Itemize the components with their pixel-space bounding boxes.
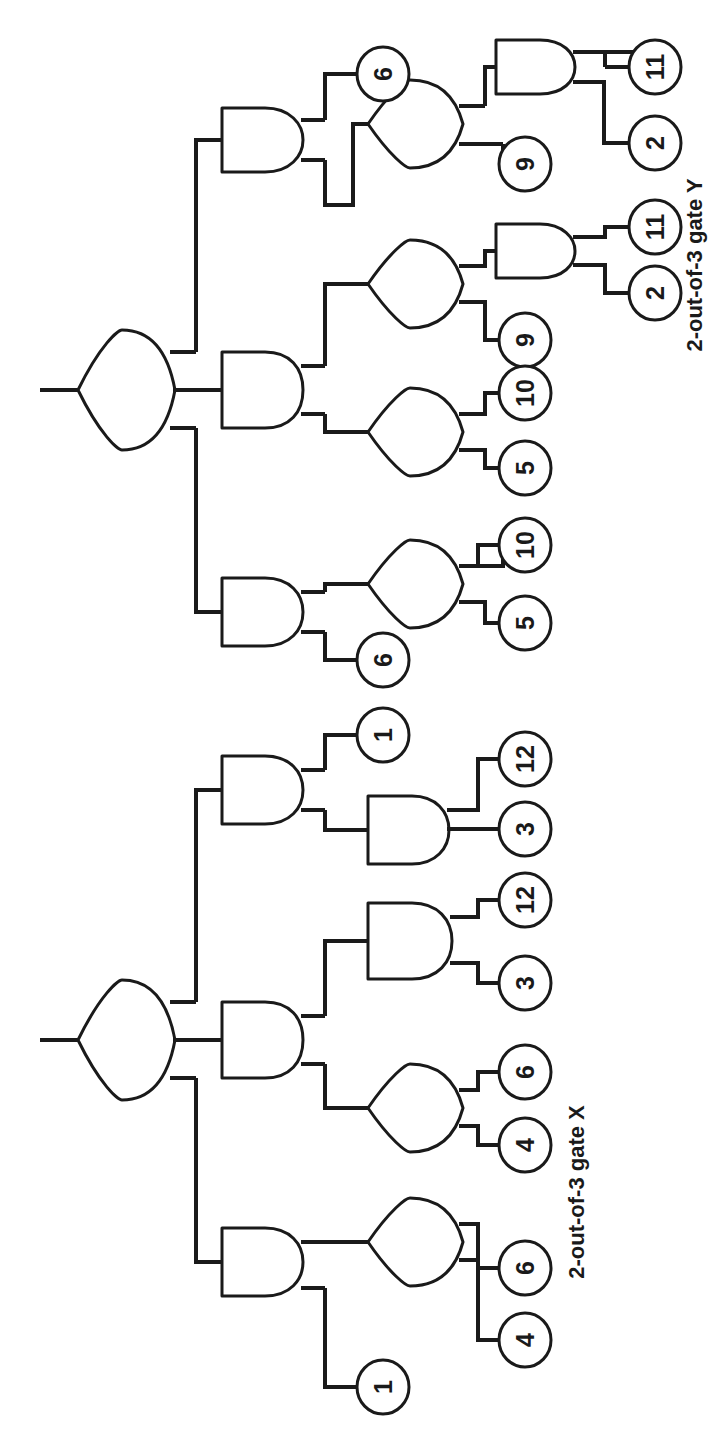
basic-event-label: 11 bbox=[641, 54, 669, 81]
basic-event-label: 1 bbox=[369, 1380, 397, 1394]
x-a1-to-and2 bbox=[325, 810, 368, 830]
y-branch3-wire bbox=[196, 428, 222, 612]
gate-and-x-a4 bbox=[368, 903, 452, 979]
basic-event: 5 bbox=[499, 596, 551, 650]
x-branch1-wire bbox=[196, 790, 222, 1002]
basic-event-label: 12 bbox=[511, 745, 539, 773]
basic-event-label: 10 bbox=[511, 379, 539, 407]
x-a5-to-ev1b bbox=[325, 1288, 361, 1387]
basic-event: 1 bbox=[357, 708, 409, 762]
y-o3-to-ev10a bbox=[459, 393, 503, 414]
basic-event-label: 4 bbox=[511, 1333, 539, 1347]
basic-event: 12 bbox=[499, 873, 551, 927]
caption-gate-x: 2-out-of-3 gate X bbox=[564, 1105, 589, 1279]
gate-and-x-a1 bbox=[222, 756, 303, 824]
basic-event-label: 12 bbox=[511, 886, 539, 914]
basic-event-label: 6 bbox=[369, 653, 397, 667]
basic-event-label: 9 bbox=[511, 157, 539, 171]
caption-gate-y-text: 2-out-of-3 gate Y bbox=[682, 178, 707, 351]
x-o2-to-ev4b bbox=[459, 1260, 503, 1340]
gate-and-y-a2 bbox=[496, 40, 575, 94]
y-a1-to-ev6 bbox=[325, 74, 361, 120]
basic-event: 12 bbox=[499, 732, 551, 786]
x-o1-to-ev4a bbox=[459, 1126, 503, 1145]
gate-and-x-a3 bbox=[222, 1002, 303, 1078]
y-a1-to-or1 bbox=[325, 124, 368, 205]
y-a3-to-or2 bbox=[325, 284, 368, 366]
gate-x-tree bbox=[40, 735, 503, 1387]
basic-event-label: 11 bbox=[641, 214, 669, 241]
gate-or-y-o3 bbox=[368, 388, 463, 476]
gate-and-y-a4 bbox=[496, 224, 575, 278]
basic-event: 6 bbox=[499, 1045, 551, 1099]
y-o1-to-and2 bbox=[485, 67, 496, 106]
gate-or-y-root bbox=[78, 330, 175, 450]
basic-event: 4 bbox=[499, 1118, 551, 1172]
basic-event-label: 6 bbox=[369, 67, 397, 81]
y-a2-in1-jog bbox=[573, 52, 605, 67]
x-a1-to-ev1a bbox=[325, 735, 361, 770]
basic-event-label: 9 bbox=[511, 333, 539, 347]
basic-event: 6 bbox=[499, 1241, 551, 1295]
basic-event-label: 4 bbox=[511, 1138, 539, 1152]
basic-event-label: 6 bbox=[511, 1065, 539, 1079]
basic-event: 1 bbox=[357, 1360, 409, 1414]
basic-event: 5 bbox=[499, 441, 551, 495]
basic-event: 4 bbox=[499, 1313, 551, 1367]
gate-or-y-o2 bbox=[368, 240, 463, 328]
x-a3-to-or1 bbox=[325, 1064, 368, 1108]
basic-event: 11 bbox=[629, 40, 681, 94]
basic-event: 10 bbox=[499, 518, 551, 572]
gate-and-x-a2 bbox=[368, 796, 449, 864]
y-a2-in2-to-ev2 bbox=[573, 82, 633, 143]
fault-tree-diagram: 6112911291051056112312364641 2-out-of-3 … bbox=[0, 0, 725, 1437]
gate-or-x-root bbox=[78, 980, 175, 1100]
basic-event-label: 2 bbox=[641, 136, 669, 150]
basic-event-label: 6 bbox=[511, 1261, 539, 1275]
x-a4-to-ev12b bbox=[450, 900, 503, 917]
y-o4-to-ev10b-seg bbox=[459, 545, 503, 566]
y-a4-to-ev11b bbox=[573, 227, 633, 237]
y-o3-to-ev5a bbox=[459, 450, 503, 468]
basic-event: 3 bbox=[499, 802, 551, 856]
basic-event-label: 3 bbox=[511, 976, 539, 990]
caption-gate-x-text: 2-out-of-3 gate X bbox=[564, 1105, 589, 1279]
basic-event: 6 bbox=[357, 633, 409, 687]
y-a5-to-ev6b bbox=[325, 632, 361, 660]
basic-event-label: 5 bbox=[511, 461, 539, 475]
y-a4-to-ev2b bbox=[573, 265, 633, 293]
basic-event: 2 bbox=[629, 116, 681, 170]
x-o1-to-ev6a bbox=[459, 1072, 503, 1090]
basic-event: 3 bbox=[499, 956, 551, 1010]
gate-and-y-a5 bbox=[222, 578, 303, 646]
x-branch3-wire bbox=[196, 1078, 222, 1262]
basic-event: 9 bbox=[499, 137, 551, 191]
basic-event: 6 bbox=[357, 47, 409, 101]
y-o4-to-ev5b bbox=[459, 602, 503, 623]
basic-event-label: 3 bbox=[511, 822, 539, 836]
basic-event-label: 10 bbox=[511, 531, 539, 559]
y-o2-to-ev9b bbox=[459, 302, 503, 340]
gate-and-y-a3 bbox=[222, 352, 303, 428]
y-a3-to-or3 bbox=[325, 414, 368, 432]
gate-or-y-o4 bbox=[368, 540, 463, 628]
basic-event-label: 5 bbox=[511, 616, 539, 630]
caption-gate-y: 2-out-of-3 gate Y bbox=[682, 178, 707, 351]
gate-and-x-a5 bbox=[222, 1228, 303, 1296]
y-branch1-wire bbox=[196, 140, 222, 352]
y-o2-to-and4 bbox=[459, 251, 496, 266]
gate-and-y-a1 bbox=[222, 108, 303, 172]
fault-tree-canvas: 6112911291051056112312364641 2-out-of-3 … bbox=[0, 0, 725, 1437]
basic-event: 9 bbox=[499, 313, 551, 367]
basic-event: 11 bbox=[629, 200, 681, 254]
x-a4-to-ev3b bbox=[450, 963, 503, 983]
basic-event-label: 1 bbox=[369, 728, 397, 742]
y-a5-to-or4 bbox=[325, 584, 368, 592]
gate-or-x-o1 bbox=[368, 1064, 463, 1152]
x-a2-to-ev12a bbox=[447, 759, 503, 810]
x-a3-to-and4 bbox=[325, 941, 368, 1016]
gate-or-x-o2 bbox=[368, 1198, 463, 1286]
basic-event: 2 bbox=[629, 266, 681, 320]
basic-event-label: 2 bbox=[641, 286, 669, 300]
basic-event: 10 bbox=[499, 366, 551, 420]
